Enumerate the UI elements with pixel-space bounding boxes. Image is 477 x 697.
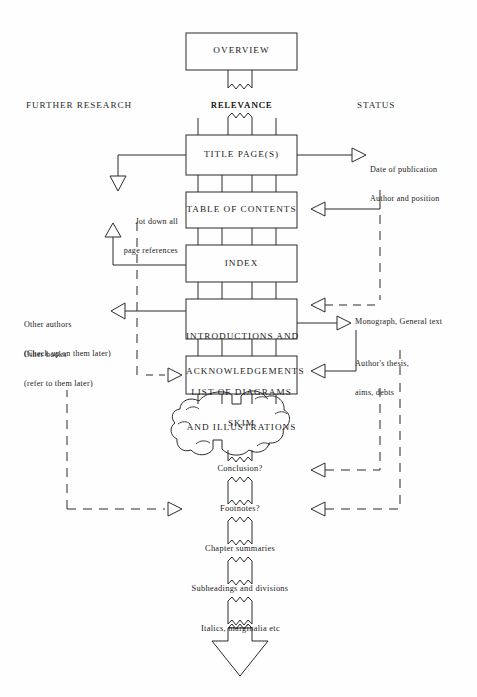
arrow-status-footnotes-head [311,502,325,516]
arrow-titlepages-left-line [118,155,186,176]
node-overview-label[interactable]: OVERVIEW [186,45,297,56]
node-index-label[interactable]: INDEX [186,258,297,269]
stub-titlepages-down [198,175,276,192]
annotation-other-authors-line1: Other authors [24,320,111,330]
node-skim-label[interactable]: SKIM [186,418,297,429]
column-header-further-research: FURTHER RESEARCH [26,100,132,111]
annotation-other-books-line2: (refer to them later) [24,379,93,389]
arrow-titlepages-left-head [110,176,126,191]
arrow-status-introductions-head [311,298,325,312]
annotation-other-books-line1: Other books [24,350,93,360]
annotation-authors-thesis-line1: Author's thesis, [355,359,409,369]
arrow-thesis-listdiagrams-line [325,330,356,371]
dashed-research-footnotes [67,390,165,509]
annotation-jot-down: Jot down all page references [83,198,178,274]
arrow-status-conclusion-head [311,463,325,477]
arrow-titlepages-right-head [352,148,366,162]
arrow-thesis-listdiagrams-head [311,364,325,378]
node-relevance-label: RELEVANCE [186,100,297,111]
annotation-monograph: Monograph, General text [355,317,442,327]
stub-index-down [198,282,276,299]
annotation-authors-thesis-line2: aims, debts [355,388,409,398]
annotation-date-of-publication-line2: Author and position [370,194,440,204]
node-title-pages-label[interactable]: TITLE PAGE(S) [186,149,297,160]
chain-item-italics[interactable]: Italics, marginalia etc [173,624,308,634]
annotation-authors-thesis: Author's thesis, aims, debts [355,340,409,416]
annotation-date-of-publication-line1: Date of publication [370,165,440,175]
node-list-of-diagrams-label[interactable]: LIST OF DIAGRAMS AND ILLUSTRATIONS [186,364,297,456]
stub-titlepages-up [198,118,276,135]
torn-subheadings-italics [228,597,252,625]
arrow-introductions-right-head [337,316,351,330]
arrow-status-toc-head [311,202,325,216]
stub-toc-down [198,228,276,245]
annotation-date-of-publication: Date of publication Author and position [370,146,440,222]
node-table-of-contents-label[interactable]: TABLE OF CONTENTS [186,204,297,215]
chain-item-chapter-summaries[interactable]: Chapter summaries [180,544,300,554]
arrow-final-down [212,628,268,676]
chain-item-subheadings[interactable]: Subheadings and divisions [165,584,315,594]
torn-footnotes-chapter [228,517,252,545]
torn-chapter-subheadings [228,557,252,585]
connector-relevance-titlepages [228,113,252,135]
column-header-status: STATUS [357,100,395,111]
annotation-jot-down-line1: Jot down all [83,217,178,227]
chain-item-footnotes[interactable]: Footnotes? [180,504,300,514]
arrow-introductions-left-head [111,303,125,319]
node-list-of-diagrams-line1: LIST OF DIAGRAMS [186,387,297,399]
annotation-other-books: Other books (refer to them later) [24,331,93,407]
annotation-jot-down-line2: page references [83,246,178,256]
chain-item-conclusion[interactable]: Conclusion? [180,464,300,474]
diagram-page: FURTHER RESEARCH RELEVANCE STATUS OVERVI… [0,0,477,697]
arrow-left-listdiagrams-head [168,368,182,382]
connector-overview-relevance [228,70,252,89]
torn-conclusion-footnotes [228,477,252,505]
node-introductions-line1: INTRODUCTIONS AND [186,331,297,343]
